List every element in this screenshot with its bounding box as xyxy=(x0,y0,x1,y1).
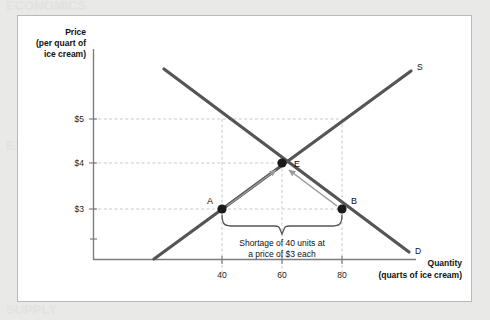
point-a-label: A xyxy=(207,196,213,206)
y-axis-title-line2: (per quart of xyxy=(36,38,86,48)
y-tick-label-3: $3 xyxy=(75,204,85,214)
svg-text:ECONOMICS: ECONOMICS xyxy=(6,0,87,13)
supply-curve-label: S xyxy=(417,62,423,72)
point-e-label: E xyxy=(294,159,300,169)
shortage-annotation-line2: a price of $3 each xyxy=(248,249,316,259)
point-a-marker xyxy=(217,204,226,213)
demand-curve-label: D xyxy=(415,246,421,256)
shortage-annotation-line1: Shortage of 40 units at xyxy=(239,238,325,248)
svg-text:SUPPLY: SUPPLY xyxy=(6,302,57,317)
y-axis-title-line1: Price xyxy=(65,27,86,37)
y-tick-label-4: $4 xyxy=(75,158,85,168)
x-tick-label-40: 40 xyxy=(217,270,227,280)
x-axis-title-line2: (quarts of ice cream) xyxy=(378,270,462,280)
x-tick-label-60: 60 xyxy=(277,270,287,280)
arrow-from-a-to-e xyxy=(227,170,276,206)
y-axis-title-line3: ice cream) xyxy=(44,49,86,59)
x-tick-label-80: 80 xyxy=(337,270,347,280)
point-e-marker xyxy=(277,158,286,167)
axis-lines xyxy=(93,49,416,260)
point-b-label: B xyxy=(351,196,357,206)
point-b-marker xyxy=(337,204,346,213)
supply-demand-chart: $5 $4 $3 40 60 80 Price (per quart of ic… xyxy=(18,16,473,303)
arrow-from-b-to-e xyxy=(289,170,337,206)
y-tick-label-5: $5 xyxy=(75,114,85,124)
chart-panel: $5 $4 $3 40 60 80 Price (per quart of ic… xyxy=(17,15,472,302)
x-axis-title-line1: Quantity xyxy=(428,258,463,268)
